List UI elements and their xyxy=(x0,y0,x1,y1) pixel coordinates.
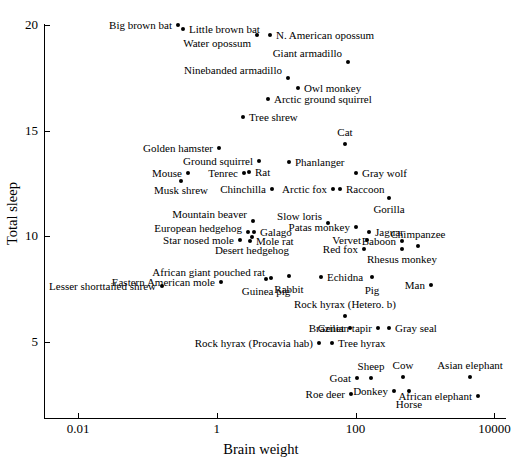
data-point-label: Asian elephant xyxy=(437,360,503,371)
data-point-label: Goat xyxy=(330,373,351,384)
data-point[interactable] xyxy=(268,33,272,37)
data-point-label: Mouse xyxy=(152,168,182,179)
data-point[interactable] xyxy=(255,33,259,37)
data-point-label: Arctic ground squirrel xyxy=(274,94,372,105)
data-point-label: Water opossum xyxy=(183,38,251,49)
y-axis-tick xyxy=(45,236,50,237)
data-point[interactable] xyxy=(179,179,183,183)
data-point[interactable] xyxy=(376,326,380,330)
data-point[interactable] xyxy=(241,115,245,119)
data-point[interactable] xyxy=(176,23,180,27)
data-point[interactable] xyxy=(286,76,290,80)
data-point-label: Giant armadillo xyxy=(273,48,342,59)
data-point[interactable] xyxy=(401,375,405,379)
data-point[interactable] xyxy=(476,394,480,398)
y-axis-tick-label: 15 xyxy=(4,123,38,139)
data-point[interactable] xyxy=(287,274,291,278)
data-point-label: Chinchilla xyxy=(220,184,266,195)
data-point[interactable] xyxy=(317,341,321,345)
x-axis-tick-label: 100 xyxy=(346,421,366,437)
data-point-label: Brazilian tapir xyxy=(309,323,372,334)
data-point[interactable] xyxy=(354,171,358,175)
data-point-label: Eastern American mole xyxy=(112,277,215,288)
data-point-label: Tenrec xyxy=(208,168,238,179)
data-point[interactable] xyxy=(468,375,472,379)
data-point-label: Big brown bat xyxy=(109,20,172,31)
data-point[interactable] xyxy=(251,219,255,223)
y-axis-title: Total sleep xyxy=(4,154,21,274)
data-point[interactable] xyxy=(248,239,252,243)
x-axis-tick-label: 0.01 xyxy=(67,421,90,437)
data-point[interactable] xyxy=(354,225,358,229)
y-axis-tick xyxy=(45,342,50,343)
x-axis-tick-label: 10000 xyxy=(478,421,511,437)
data-point[interactable] xyxy=(250,235,254,239)
data-point-label: Gray seal xyxy=(395,323,437,334)
data-point[interactable] xyxy=(247,170,251,174)
data-point-label: Donkey xyxy=(353,386,388,397)
data-point[interactable] xyxy=(429,283,433,287)
data-point[interactable] xyxy=(343,142,347,146)
data-point[interactable] xyxy=(392,389,396,393)
data-point-label: Raccoon xyxy=(346,184,384,195)
data-point-label: Gorilla xyxy=(373,204,404,215)
data-point-label: Rock hyrax (Procavia hab) xyxy=(195,338,313,349)
data-point-label: Patas monkey xyxy=(289,222,350,233)
x-axis-tick xyxy=(217,413,218,418)
data-point[interactable] xyxy=(407,389,411,393)
data-point[interactable] xyxy=(362,247,366,251)
data-point-label: Tree hyrax xyxy=(338,338,386,349)
data-point-label: Gray wolf xyxy=(362,168,407,179)
x-axis-tick xyxy=(494,413,495,418)
data-point-label: Tree shrew xyxy=(249,112,298,123)
data-point-label: Rat xyxy=(255,167,270,178)
data-point[interactable] xyxy=(269,276,273,280)
data-point-label: Roe deer xyxy=(306,389,345,400)
x-axis-tick xyxy=(78,413,79,418)
data-point-label: Little brown bat xyxy=(189,24,260,35)
y-axis-tick-label: 5 xyxy=(4,334,38,350)
data-point[interactable] xyxy=(369,376,373,380)
data-point-label: Echidna xyxy=(327,272,363,283)
data-point-label: Mountain beaver xyxy=(172,209,247,220)
data-point-label: Golden hamster xyxy=(143,143,213,154)
x-axis-tick xyxy=(356,413,357,418)
data-point[interactable] xyxy=(319,275,323,279)
data-point[interactable] xyxy=(355,376,359,380)
data-point[interactable] xyxy=(270,187,274,191)
data-point[interactable] xyxy=(387,326,391,330)
data-point[interactable] xyxy=(343,314,347,318)
data-point-label: Red fox xyxy=(323,244,358,255)
data-point[interactable] xyxy=(330,341,334,345)
data-point[interactable] xyxy=(287,160,291,164)
data-point[interactable] xyxy=(331,187,335,191)
data-point[interactable] xyxy=(217,146,221,150)
data-point[interactable] xyxy=(338,187,342,191)
data-point[interactable] xyxy=(367,230,371,234)
data-point[interactable] xyxy=(296,86,300,90)
data-point[interactable] xyxy=(242,171,246,175)
data-point[interactable] xyxy=(181,27,185,31)
data-point[interactable] xyxy=(266,97,270,101)
data-point-label: Man xyxy=(405,280,425,291)
data-point-label: Rabbit xyxy=(274,284,303,295)
data-point[interactable] xyxy=(346,60,350,64)
data-point[interactable] xyxy=(238,238,242,242)
data-point-label: European hedgehog xyxy=(154,223,242,234)
data-point[interactable] xyxy=(387,196,391,200)
data-point-label: Rhesus monkey xyxy=(367,254,437,265)
data-point[interactable] xyxy=(400,247,404,251)
data-point[interactable] xyxy=(257,159,261,163)
data-point[interactable] xyxy=(416,244,420,248)
data-point[interactable] xyxy=(219,280,223,284)
data-point[interactable] xyxy=(370,275,374,279)
data-point-label: Cat xyxy=(337,127,352,138)
data-point[interactable] xyxy=(252,230,256,234)
data-point[interactable] xyxy=(264,277,268,281)
data-point[interactable] xyxy=(186,171,190,175)
data-point[interactable] xyxy=(349,392,353,396)
data-point[interactable] xyxy=(246,230,250,234)
y-axis-line xyxy=(44,24,45,419)
data-point-label: Rock hyrax (Hetero. b) xyxy=(294,299,396,310)
data-point-label: Arctic fox xyxy=(282,184,327,195)
